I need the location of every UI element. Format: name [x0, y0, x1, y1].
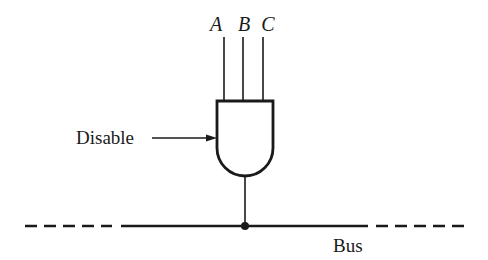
bus-label: Bus [333, 235, 363, 256]
input-label-a: A [208, 13, 223, 35]
input-label-b: B [238, 13, 250, 35]
input-label-c: C [261, 13, 275, 35]
input-lines [224, 37, 263, 101]
arrow-head-icon [206, 135, 217, 142]
disable-label: Disable [76, 127, 134, 148]
gate-bus-diagram: A B C Disable Bus [0, 0, 488, 260]
and-gate-icon [217, 101, 273, 176]
junction-dot-icon [241, 222, 249, 230]
